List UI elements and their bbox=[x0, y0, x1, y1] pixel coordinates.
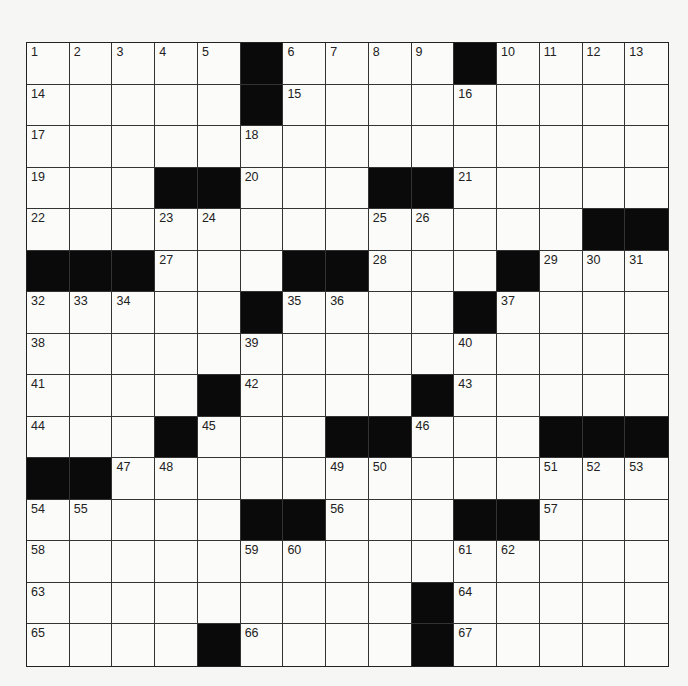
crossword-cell[interactable]: 54 bbox=[27, 500, 70, 542]
crossword-cell[interactable] bbox=[497, 85, 540, 127]
crossword-cell[interactable]: 6 bbox=[283, 43, 326, 85]
crossword-cell[interactable]: 66 bbox=[241, 624, 284, 666]
crossword-cell[interactable]: 40 bbox=[454, 334, 497, 376]
crossword-cell[interactable]: 16 bbox=[454, 85, 497, 127]
crossword-cell[interactable] bbox=[241, 583, 284, 625]
crossword-cell[interactable] bbox=[625, 334, 668, 376]
crossword-cell[interactable] bbox=[540, 209, 583, 251]
crossword-cell[interactable]: 36 bbox=[326, 292, 369, 334]
crossword-cell[interactable] bbox=[497, 126, 540, 168]
crossword-cell[interactable] bbox=[497, 375, 540, 417]
crossword-cell[interactable] bbox=[283, 168, 326, 210]
crossword-cell[interactable] bbox=[497, 624, 540, 666]
crossword-cell[interactable] bbox=[625, 292, 668, 334]
crossword-cell[interactable]: 41 bbox=[27, 375, 70, 417]
crossword-cell[interactable] bbox=[112, 541, 155, 583]
crossword-cell[interactable]: 20 bbox=[241, 168, 284, 210]
crossword-cell[interactable] bbox=[412, 85, 455, 127]
crossword-cell[interactable] bbox=[283, 375, 326, 417]
crossword-cell[interactable] bbox=[155, 624, 198, 666]
crossword-cell[interactable] bbox=[454, 417, 497, 459]
crossword-cell[interactable] bbox=[369, 624, 412, 666]
crossword-cell[interactable]: 15 bbox=[283, 85, 326, 127]
crossword-cell[interactable] bbox=[412, 126, 455, 168]
crossword-cell[interactable]: 13 bbox=[625, 43, 668, 85]
crossword-cell[interactable]: 67 bbox=[454, 624, 497, 666]
crossword-cell[interactable] bbox=[198, 583, 241, 625]
crossword-cell[interactable]: 29 bbox=[540, 251, 583, 293]
crossword-cell[interactable] bbox=[540, 292, 583, 334]
crossword-cell[interactable] bbox=[497, 168, 540, 210]
crossword-cell[interactable] bbox=[625, 500, 668, 542]
crossword-cell[interactable]: 24 bbox=[198, 209, 241, 251]
crossword-cell[interactable] bbox=[412, 251, 455, 293]
crossword-cell[interactable]: 27 bbox=[155, 251, 198, 293]
crossword-cell[interactable] bbox=[155, 334, 198, 376]
crossword-cell[interactable] bbox=[326, 168, 369, 210]
crossword-cell[interactable] bbox=[70, 85, 113, 127]
crossword-cell[interactable]: 60 bbox=[283, 541, 326, 583]
crossword-cell[interactable]: 1 bbox=[27, 43, 70, 85]
crossword-cell[interactable] bbox=[155, 85, 198, 127]
crossword-cell[interactable]: 55 bbox=[70, 500, 113, 542]
crossword-cell[interactable] bbox=[198, 85, 241, 127]
crossword-cell[interactable]: 17 bbox=[27, 126, 70, 168]
crossword-cell[interactable]: 49 bbox=[326, 458, 369, 500]
crossword-cell[interactable] bbox=[326, 209, 369, 251]
crossword-cell[interactable]: 65 bbox=[27, 624, 70, 666]
crossword-cell[interactable]: 23 bbox=[155, 209, 198, 251]
crossword-cell[interactable] bbox=[283, 334, 326, 376]
crossword-cell[interactable] bbox=[70, 541, 113, 583]
crossword-cell[interactable]: 48 bbox=[155, 458, 198, 500]
crossword-cell[interactable] bbox=[454, 209, 497, 251]
crossword-cell[interactable] bbox=[283, 126, 326, 168]
crossword-cell[interactable] bbox=[326, 85, 369, 127]
crossword-cell[interactable] bbox=[198, 334, 241, 376]
crossword-cell[interactable]: 8 bbox=[369, 43, 412, 85]
crossword-cell[interactable]: 59 bbox=[241, 541, 284, 583]
crossword-cell[interactable] bbox=[369, 126, 412, 168]
crossword-cell[interactable] bbox=[112, 168, 155, 210]
crossword-cell[interactable] bbox=[625, 126, 668, 168]
crossword-cell[interactable] bbox=[326, 583, 369, 625]
crossword-cell[interactable]: 7 bbox=[326, 43, 369, 85]
crossword-cell[interactable] bbox=[326, 375, 369, 417]
crossword-cell[interactable] bbox=[112, 375, 155, 417]
crossword-cell[interactable] bbox=[241, 251, 284, 293]
crossword-cell[interactable] bbox=[412, 292, 455, 334]
crossword-cell[interactable]: 34 bbox=[112, 292, 155, 334]
crossword-cell[interactable] bbox=[198, 251, 241, 293]
crossword-cell[interactable]: 56 bbox=[326, 500, 369, 542]
crossword-cell[interactable] bbox=[583, 292, 626, 334]
crossword-cell[interactable] bbox=[70, 417, 113, 459]
crossword-cell[interactable] bbox=[112, 417, 155, 459]
crossword-cell[interactable]: 14 bbox=[27, 85, 70, 127]
crossword-cell[interactable] bbox=[369, 583, 412, 625]
crossword-cell[interactable] bbox=[283, 458, 326, 500]
crossword-cell[interactable] bbox=[497, 209, 540, 251]
crossword-cell[interactable] bbox=[155, 375, 198, 417]
crossword-cell[interactable]: 47 bbox=[112, 458, 155, 500]
crossword-cell[interactable]: 52 bbox=[583, 458, 626, 500]
crossword-cell[interactable]: 57 bbox=[540, 500, 583, 542]
crossword-cell[interactable] bbox=[112, 583, 155, 625]
crossword-cell[interactable]: 5 bbox=[198, 43, 241, 85]
crossword-cell[interactable]: 58 bbox=[27, 541, 70, 583]
crossword-cell[interactable] bbox=[283, 624, 326, 666]
crossword-cell[interactable] bbox=[369, 334, 412, 376]
crossword-cell[interactable] bbox=[369, 541, 412, 583]
crossword-cell[interactable] bbox=[283, 417, 326, 459]
crossword-cell[interactable]: 43 bbox=[454, 375, 497, 417]
crossword-cell[interactable] bbox=[70, 168, 113, 210]
crossword-cell[interactable] bbox=[369, 85, 412, 127]
crossword-cell[interactable]: 25 bbox=[369, 209, 412, 251]
crossword-cell[interactable] bbox=[241, 458, 284, 500]
crossword-cell[interactable] bbox=[326, 624, 369, 666]
crossword-cell[interactable] bbox=[155, 500, 198, 542]
crossword-cell[interactable] bbox=[497, 458, 540, 500]
crossword-cell[interactable]: 63 bbox=[27, 583, 70, 625]
crossword-cell[interactable] bbox=[540, 85, 583, 127]
crossword-cell[interactable] bbox=[112, 624, 155, 666]
crossword-cell[interactable]: 39 bbox=[241, 334, 284, 376]
crossword-cell[interactable] bbox=[369, 375, 412, 417]
